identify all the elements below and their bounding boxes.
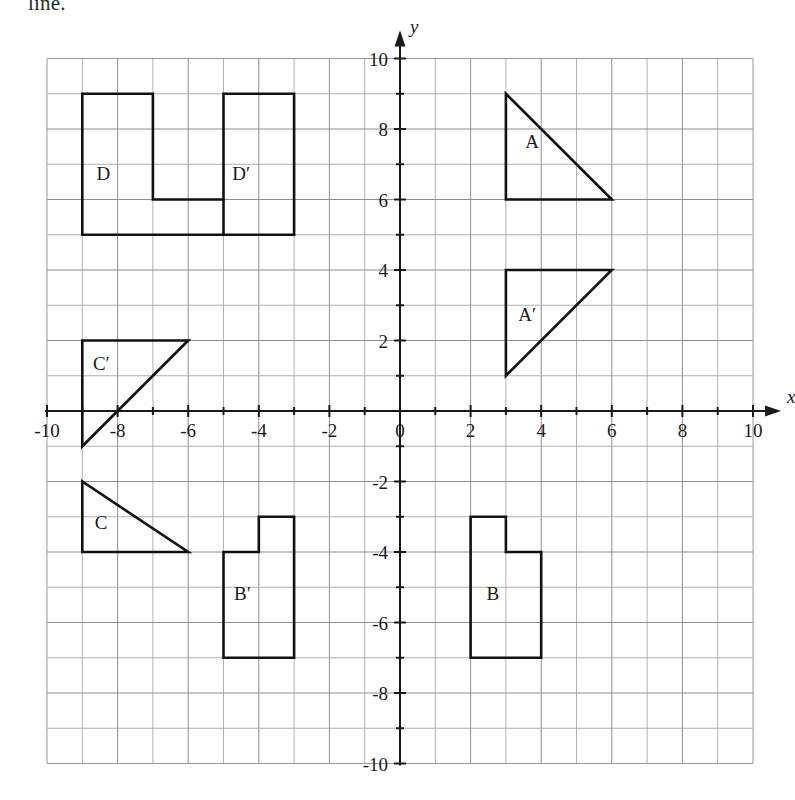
x-tick-label: 10 xyxy=(744,420,763,441)
x-axis-name: x xyxy=(786,386,795,407)
shape-label-B-prime: B′ xyxy=(234,583,251,604)
y-tick-label: -4 xyxy=(372,542,388,563)
x-tick-label: 8 xyxy=(678,420,688,441)
y-tick-label: -8 xyxy=(372,683,388,704)
x-tick-label: -2 xyxy=(321,420,337,441)
y-tick-label: -2 xyxy=(372,472,388,493)
x-tick-label: -4 xyxy=(251,420,267,441)
coordinate-plane: -10-8-6-4-20246810108642-2-4-6-8-10xyAA′… xyxy=(0,0,795,800)
x-tick-label: 4 xyxy=(536,420,546,441)
x-tick-label: -6 xyxy=(180,420,196,441)
y-tick-label: 8 xyxy=(379,119,389,140)
y-tick-label: -10 xyxy=(363,754,388,775)
shape-label-A-prime: A′ xyxy=(518,304,536,325)
shape-A xyxy=(506,94,612,200)
y-tick-label: 10 xyxy=(369,49,388,70)
shape-label-D: D xyxy=(96,163,110,184)
y-axis-arrowhead xyxy=(395,31,406,47)
shape-label-D-prime: D′ xyxy=(232,163,250,184)
x-tick-label: -10 xyxy=(34,420,59,441)
shape-label-C: C xyxy=(95,512,108,533)
y-tick-label: 6 xyxy=(379,190,389,211)
shape-label-B: B xyxy=(486,583,499,604)
y-tick-label: 4 xyxy=(379,260,389,281)
x-axis-arrowhead xyxy=(765,406,781,417)
shape-label-A: A xyxy=(525,131,539,152)
worksheet-canvas: line. -10-8-6-4-20246810108642-2-4-6-8-1… xyxy=(0,0,795,800)
x-tick-label: -8 xyxy=(110,420,126,441)
y-axis-name: y xyxy=(408,16,419,37)
shape-label-C-prime: C′ xyxy=(93,353,110,374)
x-tick-label: 0 xyxy=(395,420,405,441)
y-tick-label: 2 xyxy=(379,331,389,352)
y-tick-label: -6 xyxy=(372,613,388,634)
x-tick-label: 6 xyxy=(607,420,617,441)
axes-layer xyxy=(45,31,781,766)
x-tick-label: 2 xyxy=(466,420,476,441)
